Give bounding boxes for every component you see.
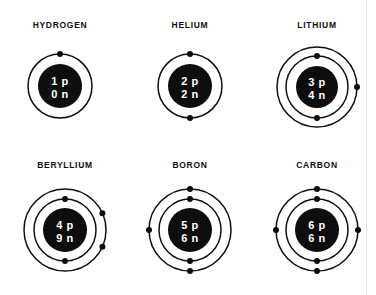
electron-shell1-1 [62, 196, 68, 202]
proton-count: 1 p [51, 75, 68, 87]
atom-svg: 3 p4 n [269, 39, 365, 135]
electron-shell1-2 [187, 115, 193, 121]
electron-shell2-3 [314, 268, 320, 274]
proton-count: 4 p [56, 219, 73, 231]
electron-shell1-2 [314, 115, 320, 121]
proton-count: 5 p [181, 219, 198, 231]
electron-shell1-1 [57, 51, 63, 57]
atom-diagram-beryllium: 4 p9 n [16, 181, 114, 279]
proton-count: 2 p [181, 75, 198, 87]
atom-label: BERYLLIUM [5, 160, 125, 170]
atom-svg: 5 p6 n [141, 181, 239, 279]
electron-shell2-2 [146, 227, 152, 233]
electron-shell1-2 [62, 258, 68, 264]
neutron-count: 0 n [51, 88, 68, 100]
atom-label: HYDROGEN [0, 20, 120, 30]
bohr-model-figure: HYDROGEN1 p0 nHELIUM2 p2 nLITHIUM3 p4 nB… [0, 0, 376, 295]
electron-shell1-2 [314, 258, 320, 264]
electron-shell1-1 [314, 53, 320, 59]
neutron-count: 9 n [56, 232, 73, 244]
neutron-count: 6 n [308, 232, 325, 244]
electron-shell1-1 [314, 196, 320, 202]
atom-label: CARBON [257, 160, 376, 170]
atom-diagram-lithium: 3 p4 n [269, 39, 365, 135]
electron-shell1-2 [187, 258, 193, 264]
atom-diagram-boron: 5 p6 n [141, 181, 239, 279]
atom-label: HELIUM [130, 20, 250, 30]
atom-diagram-helium: 2 p2 n [150, 46, 230, 126]
atom-diagram-carbon: 6 p6 n [268, 181, 366, 279]
electron-shell2-3 [187, 268, 193, 274]
electron-shell2-1 [314, 186, 320, 192]
neutron-count: 2 n [181, 88, 198, 100]
atom-diagram-hydrogen: 1 p0 n [20, 46, 100, 126]
electron-shell2-1 [187, 186, 193, 192]
electron-shell1-1 [187, 51, 193, 57]
atom-grid: HYDROGEN1 p0 nHELIUM2 p2 nLITHIUM3 p4 nB… [0, 0, 376, 295]
electron-shell2-1 [99, 210, 105, 216]
neutron-count: 6 n [181, 232, 198, 244]
electron-shell2-2 [355, 227, 361, 233]
proton-count: 3 p [308, 76, 325, 88]
electron-shell2-2 [99, 244, 105, 250]
atom-label: BORON [130, 160, 250, 170]
proton-count: 6 p [308, 219, 325, 231]
electron-shell1-1 [187, 196, 193, 202]
atom-label: LITHIUM [257, 20, 376, 30]
atom-svg: 4 p9 n [16, 181, 114, 279]
neutron-count: 4 n [308, 89, 325, 101]
electron-shell2-1 [354, 84, 360, 90]
atom-svg: 1 p0 n [20, 46, 100, 126]
atom-svg: 6 p6 n [268, 181, 366, 279]
atom-svg: 2 p2 n [150, 46, 230, 126]
electron-shell2-4 [273, 227, 279, 233]
